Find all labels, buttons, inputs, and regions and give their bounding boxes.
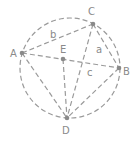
segment-e-d <box>63 59 67 118</box>
label-c: C <box>88 6 95 17</box>
geometry-diagram: A B C D E b a c <box>0 0 137 141</box>
side-label-b: b <box>50 29 56 40</box>
point-c <box>91 22 96 27</box>
label-d: D <box>62 125 70 136</box>
segment-b-d <box>67 68 119 118</box>
side-label-a: a <box>96 44 102 55</box>
point-b <box>117 66 122 71</box>
point-e <box>61 57 66 62</box>
label-e: E <box>60 44 66 55</box>
point-d <box>65 116 70 121</box>
point-a <box>20 51 25 56</box>
side-label-c: c <box>87 67 93 78</box>
label-a: A <box>10 48 17 59</box>
segment-a-d <box>22 53 67 118</box>
segment-a-c <box>22 24 93 53</box>
label-b: B <box>123 66 130 77</box>
segment-a-b <box>22 53 119 68</box>
